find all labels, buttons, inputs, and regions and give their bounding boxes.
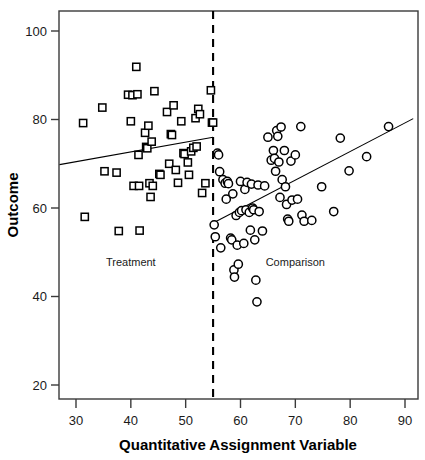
data-point-square — [196, 111, 203, 118]
data-point-circle — [285, 217, 293, 225]
data-point-circle — [345, 167, 353, 175]
chart-canvas: 20406080100 30405060708090 TreatmentComp… — [0, 0, 425, 460]
data-point-circle — [216, 168, 224, 176]
x-tick-label: 40 — [124, 413, 138, 428]
data-point-circle — [363, 153, 371, 161]
data-point-circle — [280, 146, 288, 154]
annotation-treatment: Treatment — [106, 256, 156, 268]
x-axis-title: Quantitative Assignment Variable — [119, 436, 357, 453]
data-point-square — [148, 138, 155, 145]
data-point-circle — [230, 273, 238, 281]
data-point-circle — [253, 298, 261, 306]
data-point-circle — [293, 195, 301, 203]
data-point-square — [149, 182, 156, 189]
data-point-square — [174, 179, 181, 186]
data-point-circle — [252, 276, 260, 284]
data-point-circle — [336, 134, 344, 142]
data-point-circle — [308, 216, 316, 224]
data-point-circle — [234, 260, 242, 268]
data-point-circle — [224, 180, 232, 188]
y-tick-label: 40 — [33, 289, 47, 304]
data-point-circle — [240, 239, 248, 247]
data-point-circle — [264, 133, 272, 141]
data-point-circle — [277, 123, 285, 131]
data-point-square — [135, 182, 142, 189]
data-point-square — [113, 169, 120, 176]
x-tick-label: 70 — [288, 413, 302, 428]
data-point-square — [127, 118, 134, 125]
x-tick-label: 30 — [69, 413, 83, 428]
data-point-circle — [255, 207, 263, 215]
data-point-circle — [229, 190, 237, 198]
data-point-circle — [217, 244, 225, 252]
data-point-square — [185, 171, 192, 178]
data-point-square — [80, 119, 87, 126]
data-point-square — [172, 166, 179, 173]
data-point-circle — [318, 183, 326, 191]
data-point-circle — [384, 122, 392, 130]
data-point-square — [99, 104, 106, 111]
data-point-square — [134, 91, 141, 98]
data-point-circle — [210, 221, 218, 229]
data-point-circle — [246, 226, 254, 234]
data-point-square — [81, 213, 88, 220]
regression-discontinuity-chart: 20406080100 30405060708090 TreatmentComp… — [0, 0, 425, 460]
x-tick-label: 60 — [233, 413, 247, 428]
data-point-circle — [274, 132, 282, 140]
data-point-circle — [269, 146, 277, 154]
y-axis-title: Outcome — [4, 172, 21, 237]
data-point-square — [145, 122, 152, 129]
data-point-square — [170, 102, 177, 109]
data-point-circle — [261, 182, 269, 190]
y-tick-label: 60 — [33, 201, 47, 216]
data-point-circle — [214, 151, 222, 159]
y-tick-label: 100 — [25, 24, 47, 39]
data-point-circle — [276, 193, 284, 201]
data-point-square — [115, 227, 122, 234]
data-point-circle — [275, 158, 283, 166]
data-point-square — [135, 151, 142, 158]
data-point-circle — [211, 233, 219, 241]
data-point-circle — [271, 167, 279, 175]
data-point-circle — [330, 207, 338, 215]
y-tick-label: 80 — [33, 112, 47, 127]
data-point-circle — [297, 122, 305, 130]
x-tick-label: 80 — [343, 413, 357, 428]
data-point-square — [151, 88, 158, 95]
data-point-square — [133, 63, 140, 70]
data-point-square — [202, 180, 209, 187]
data-point-square — [199, 189, 206, 196]
y-tick-label: 20 — [33, 378, 47, 393]
x-tick-label: 50 — [178, 413, 192, 428]
data-point-square — [184, 159, 191, 166]
data-point-square — [168, 131, 175, 138]
data-point-circle — [281, 183, 289, 191]
data-point-square — [193, 143, 200, 150]
data-point-circle — [291, 151, 299, 159]
data-point-square — [157, 171, 164, 178]
data-point-square — [209, 119, 216, 126]
data-point-circle — [251, 236, 259, 244]
data-point-circle — [300, 217, 308, 225]
data-point-square — [101, 168, 108, 175]
data-point-square — [141, 129, 148, 136]
data-point-circle — [258, 227, 266, 235]
data-point-square — [178, 118, 185, 125]
data-point-square — [136, 227, 143, 234]
x-tick-label: 90 — [398, 413, 412, 428]
data-point-square — [207, 87, 214, 94]
annotation-comparison: Comparison — [266, 256, 325, 268]
data-point-square — [147, 193, 154, 200]
